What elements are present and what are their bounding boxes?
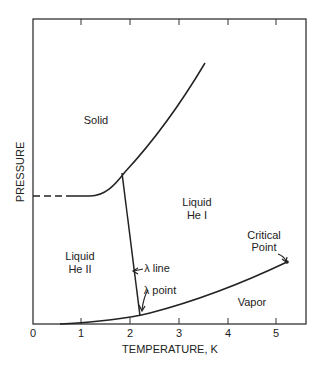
region-solid: Solid (84, 114, 108, 126)
svg-text:2: 2 (127, 327, 133, 339)
phase-diagram: 0 1 2 3 4 5 TEMPERATURE, K PRESSURE Soli… (0, 0, 322, 366)
lambda-line-label: λ line (144, 262, 170, 274)
x-tick-labels: 0 1 2 3 4 5 (30, 327, 279, 339)
svg-text:5: 5 (273, 327, 279, 339)
plot-frame (33, 19, 306, 324)
svg-text:3: 3 (176, 327, 182, 339)
svg-text:0: 0 (30, 327, 36, 339)
svg-text:Point: Point (251, 241, 276, 253)
svg-text:He I: He I (187, 209, 207, 221)
svg-text:1: 1 (78, 327, 84, 339)
ticks (81, 19, 276, 324)
x-axis-label: TEMPERATURE, K (122, 343, 218, 355)
melting-curve (66, 63, 205, 196)
svg-text:4: 4 (225, 327, 231, 339)
region-he1: Liquid (182, 196, 211, 208)
svg-text:He II: He II (68, 263, 91, 275)
region-vapor: Vapor (238, 296, 267, 308)
critical-label: Critical (247, 229, 281, 241)
lambda-point-label: λ point (144, 284, 176, 296)
lambda-line (122, 173, 140, 316)
region-he2: Liquid (65, 250, 94, 262)
y-axis-label: PRESSURE (14, 142, 26, 203)
